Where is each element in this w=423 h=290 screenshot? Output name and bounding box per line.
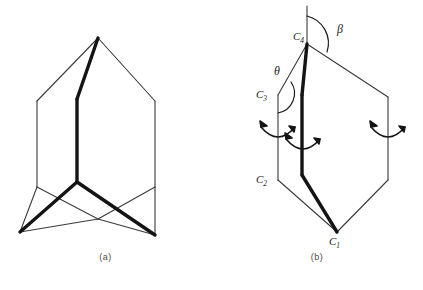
angle-label-theta: θ [274, 64, 280, 79]
figure-root: (a) [0, 0, 423, 290]
atom-label-c2-index: 2 [263, 179, 267, 188]
panel-a-bold-bonds [20, 38, 155, 235]
panel-a: (a) [0, 0, 211, 290]
atom-label-c1: C1 [329, 235, 340, 250]
atom-label-c1-index: 1 [336, 241, 340, 250]
panel-b: C4 C3 C2 C1 β θ (b) [211, 0, 423, 290]
caption-panel-b: (b) [211, 252, 423, 262]
panel-b-bold-bonds [302, 44, 337, 232]
theta-angle-arc [278, 82, 295, 113]
atom-label-c4: C4 [293, 30, 304, 45]
panel-a-drawing [0, 0, 211, 250]
angle-label-beta: β [337, 22, 343, 37]
atom-label-c3: C3 [256, 88, 267, 103]
panel-b-thin-bonds [278, 44, 388, 232]
atom-label-c4-index: 4 [300, 36, 304, 45]
atom-label-c2: C2 [256, 173, 267, 188]
caption-panel-a: (a) [0, 252, 211, 262]
atom-label-c3-index: 3 [263, 94, 267, 103]
panel-b-drawing [211, 0, 423, 250]
